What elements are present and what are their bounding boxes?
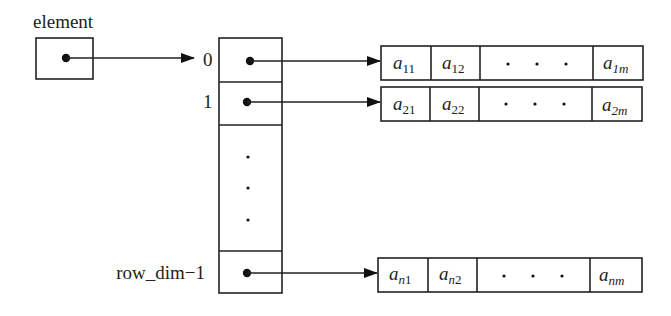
index-label-1: 1 <box>203 91 213 112</box>
cell-a2m: a2m <box>602 94 627 118</box>
row-pointer-array: 0 1 row_dim−1 <box>116 38 380 293</box>
vertical-ellipsis-dot <box>246 155 249 158</box>
cell-a12: a12 <box>442 52 465 76</box>
cell-anm: anm <box>599 264 624 288</box>
row-last: an1 an2 anm <box>378 258 642 292</box>
cell-a11: a11 <box>393 52 415 76</box>
vertical-ellipsis-dot <box>246 186 249 189</box>
cell-a21: a21 <box>393 93 416 117</box>
element-pointer: element <box>33 11 194 79</box>
row-1: a21 a22 a2m <box>381 87 642 121</box>
row-array-box <box>219 38 282 293</box>
index-label-0: 0 <box>203 49 213 70</box>
row-0: a11 a12 a1m <box>381 46 643 80</box>
cell-a1m: a1m <box>603 52 628 76</box>
vertical-ellipsis-dot <box>246 218 249 221</box>
array-of-pointers-diagram: element 0 1 row_dim−1 a11 a12 a1m <box>0 0 671 316</box>
cell-a22: a22 <box>442 93 465 117</box>
index-label-last: row_dim−1 <box>116 262 205 283</box>
element-label: element <box>33 11 94 32</box>
cell-an2: an2 <box>439 263 462 287</box>
cell-an1: an1 <box>389 263 412 287</box>
